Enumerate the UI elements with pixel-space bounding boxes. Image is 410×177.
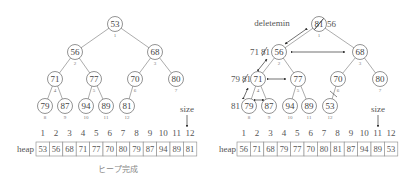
left-heap-array: 123456789101112 heap 5356687177708079879… [17,128,197,156]
node-index: 5 [297,88,300,93]
tree-node: 8911 [99,99,114,121]
array-cell: 89 [371,142,384,156]
array-index: 1 [241,128,246,138]
node-value: 94 [286,101,296,111]
svg-text:79: 79 [132,144,141,154]
array-cell: 70 [103,142,116,156]
array-cell: 80 [116,142,129,156]
node-index: 10 [84,115,90,120]
array-cell: 80 [317,142,330,156]
node-index: 2 [74,61,77,66]
array-cell: 71 [76,142,89,156]
node-value: 71 [254,74,263,84]
node-index: 11 [104,115,109,120]
node-index: 3 [359,61,362,66]
node-value: 79 [41,101,51,111]
array-index: 7 [322,128,327,138]
tree-node: 706 [331,72,346,94]
node-index: 11 [307,115,312,120]
node-value: 79 [245,101,255,111]
tree-node: 562 [68,45,83,67]
tree-node: 798 [38,99,53,121]
tree-node: 879 [58,99,73,121]
svg-text:77: 77 [92,144,101,154]
svg-text:68: 68 [266,144,275,154]
node-index: 7 [175,88,178,93]
right-size-label: size [371,104,385,114]
left-heap-label: heap [17,144,34,154]
root-new-value: 56 [327,19,337,29]
array-index: 8 [134,128,139,138]
array-cell: 94 [358,142,371,156]
left-size-label: size [180,104,194,114]
node-index: 12 [328,115,334,120]
left-tree: 531562683714775706807798879941089118112 … [38,17,195,128]
array-cell: 77 [90,142,103,156]
node-index: 4 [257,88,260,93]
array-index: 3 [268,128,273,138]
array-index: 9 [349,128,354,138]
array-index: 7 [121,128,126,138]
array-cell: 77 [291,142,304,156]
svg-text:80: 80 [119,144,128,154]
deletemin-label: deletemin [254,18,290,28]
array-index: 12 [387,128,396,138]
node-index: 3 [154,61,157,66]
array-index: 11 [373,128,382,138]
node-index: 5 [93,88,96,93]
tree-node: 811 [312,17,327,39]
tree-node: 8911 [302,99,317,121]
svg-text:89: 89 [172,144,181,154]
svg-text:71: 71 [79,144,88,154]
tree-node: 775 [291,72,306,94]
tree-node: 9410 [283,99,298,121]
node-value: 89 [102,101,112,111]
svg-text:80: 80 [320,144,329,154]
node-value: 81 [123,101,132,111]
array-index: 5 [295,128,300,138]
array-cell: 89 [170,142,183,156]
tree-node: 5312 [323,99,338,121]
tree-node: 714 [251,72,266,94]
svg-text:81: 81 [186,144,195,154]
array-cell: 56 [237,142,250,156]
svg-text:94: 94 [360,144,369,154]
swap-label-2-old: 79 [231,74,241,84]
array-index: 3 [67,128,72,138]
svg-text:89: 89 [373,144,382,154]
array-index: 1 [40,128,45,138]
tree-node: 714 [48,72,63,94]
array-cell: 53 [36,142,49,156]
node-index: 9 [64,115,67,120]
svg-text:94: 94 [159,144,168,154]
svg-text:79: 79 [280,144,289,154]
right-heap-array: 123456789101112 heap 5671687977708081879… [219,128,398,156]
node-value: 77 [294,74,304,84]
array-cell: 81 [183,142,196,156]
tree-node: 9410 [79,99,94,121]
node-value: 70 [334,74,344,84]
node-index: 6 [134,88,137,93]
tree-node: 706 [128,72,143,94]
svg-text:70: 70 [105,144,114,154]
heap-diagram: 531562683714775706807798879941089118112 … [0,0,410,177]
node-value: 53 [326,101,336,111]
tree-node: 531 [108,17,123,39]
svg-text:71: 71 [253,144,262,154]
array-index: 2 [255,128,260,138]
caption: ヒープ完成 [98,164,138,174]
tree-node: 683 [353,45,368,67]
node-value: 68 [356,47,366,57]
node-index: 9 [268,115,271,120]
array-index: 4 [282,128,287,138]
left-tree-edges [45,24,176,106]
svg-text:81: 81 [333,144,342,154]
array-cell: 68 [63,142,76,156]
array-index: 8 [335,128,340,138]
node-value: 89 [305,101,315,111]
array-index: 6 [308,128,313,138]
node-value: 77 [90,74,100,84]
svg-text:68: 68 [65,144,74,154]
node-index: 10 [288,115,294,120]
array-cell: 53 [384,142,397,156]
